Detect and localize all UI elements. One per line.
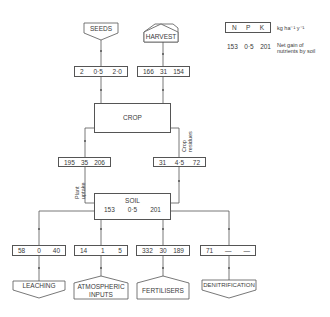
crop-residues-values: 31 4·5 72 <box>153 157 206 167</box>
crop-node: CROP <box>94 103 171 133</box>
legend-note: Net gain of nutrients by soil <box>277 42 315 54</box>
soil-node: SOIL 153 0·5 201 <box>94 193 171 220</box>
crop-label: CROP <box>95 114 170 121</box>
leaching-node: LEACHING <box>13 281 65 291</box>
legend-example-values: 153 0·5 201 <box>227 44 271 50</box>
legend-npk-box: N P K <box>225 22 271 33</box>
legend-p: P <box>246 24 250 31</box>
legend-units: kg ha⁻¹ y⁻¹ <box>277 25 304 31</box>
seeds-node: SEEDS <box>84 24 118 34</box>
legend-k: K <box>260 24 264 31</box>
harvest-values: 166 31 154 <box>137 66 190 77</box>
atmospheric-values: 14 1 5 <box>74 245 128 256</box>
soil-values: 153 0·5 201 <box>104 206 161 213</box>
crop-residues-label: Crop residues <box>181 131 193 152</box>
atmospheric-node: ATMOSPHERIC INPUTS <box>74 283 128 299</box>
plant-uptake-label: Plant uptake <box>74 182 86 199</box>
fertilisers-node: FERTILISERS <box>137 286 189 296</box>
seeds-label: SEEDS <box>90 25 112 33</box>
fertilisers-values: 332 30 189 <box>136 245 190 256</box>
harvest-label: HARVEST <box>146 33 177 41</box>
legend-n: N <box>232 24 237 31</box>
denitrification-values: 71 — — <box>200 245 256 256</box>
plant-uptake-values: 195 35 206 <box>58 157 111 167</box>
harvest-node: HARVEST <box>144 32 178 42</box>
soil-label: SOIL <box>95 197 170 204</box>
leaching-values: 58 0 40 <box>12 245 66 256</box>
seeds-values: 2 0·5 2·0 <box>74 66 128 77</box>
denitrification-node: DENITRIFICATION <box>202 280 256 290</box>
